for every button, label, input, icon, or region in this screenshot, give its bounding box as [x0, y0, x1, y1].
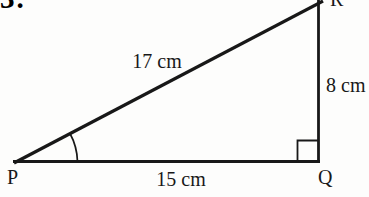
vertex-label-q: Q [318, 166, 333, 188]
vertex-label-p: P [7, 166, 18, 188]
triangle-side-hypotenuse [14, 1, 323, 163]
angle-arc-marker [70, 134, 78, 162]
hypotenuse-length-label: 17 cm [132, 50, 182, 72]
base-length-label: 15 cm [156, 168, 206, 190]
vertex-label-r: R [330, 0, 344, 10]
right-angle-marker [298, 141, 319, 162]
figure-canvas: 3. 17 cm 8 cm 15 cm P Q R [0, 0, 369, 197]
triangle-diagram: 17 cm 8 cm 15 cm P Q R [0, 0, 369, 197]
vertical-length-label: 8 cm [326, 74, 366, 96]
